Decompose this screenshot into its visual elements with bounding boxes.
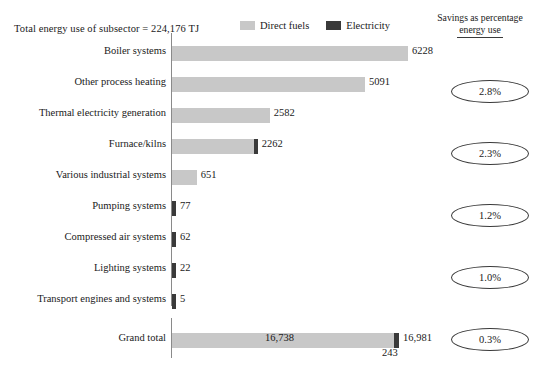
legend-item-electricity: Electricity <box>326 20 390 31</box>
legend-label-direct-fuels: Direct fuels <box>260 20 309 31</box>
chart-row: Lighting systems220.0% <box>0 255 542 286</box>
category-label: Various industrial systems <box>56 169 166 180</box>
category-label: Lighting systems <box>94 262 166 273</box>
legend-swatch-icon <box>240 21 255 30</box>
legend-swatch-icon <box>326 21 341 30</box>
category-label: Other process heating <box>74 76 166 87</box>
chart-row: Thermal electricity generation25821.2% <box>0 100 542 131</box>
category-label: Transport engines and systems <box>37 293 166 304</box>
bar-group <box>172 201 176 216</box>
chart-row: Boiler systems62282.8% <box>0 38 542 69</box>
bar-segment-electricity <box>172 232 176 247</box>
energy-use-chart: Total energy use of subsector = 224,176 … <box>0 0 542 381</box>
chart-row-grand-total: Grand total16,73816,9812437.6% <box>0 325 542 356</box>
bar-segment-electricity <box>172 294 176 309</box>
bar-segment-direct-fuels <box>172 170 197 185</box>
chart-row: Other process heating50912.3% <box>0 69 542 100</box>
bar-value-label: 2262 <box>262 138 283 149</box>
bar-value-label-direct-fuels: 16,738 <box>265 332 294 343</box>
bar-value-label: 651 <box>201 169 217 180</box>
bar-group <box>172 108 270 123</box>
category-label: Boiler systems <box>104 45 166 56</box>
bar-value-label-total: 16,981 <box>403 332 432 343</box>
bar-segment-direct-fuels <box>172 77 365 92</box>
bar-segment-electricity <box>394 333 399 348</box>
savings-column-header: Savings as percentage energy use <box>424 12 536 38</box>
bar-value-label: 5 <box>180 293 185 304</box>
bar-segment-electricity <box>254 139 258 154</box>
bar-value-label: 6228 <box>412 45 433 56</box>
bar-value-label: 62 <box>180 231 191 242</box>
chart-row: Transport engines and systems50.0% <box>0 286 542 317</box>
bar-value-label: 22 <box>180 262 191 273</box>
bar-segment-electricity <box>172 263 176 278</box>
bar-value-label: 2582 <box>274 107 295 118</box>
bar-group <box>172 77 365 92</box>
category-label: Pumping systems <box>92 200 166 211</box>
bar-value-label: 5091 <box>369 76 390 87</box>
bar-segment-direct-fuels <box>172 108 270 123</box>
category-label-grand-total: Grand total <box>118 332 166 343</box>
legend-label-electricity: Electricity <box>346 20 390 31</box>
legend-item-direct-fuels: Direct fuels <box>240 20 309 31</box>
chart-row: Compressed air systems620.0% <box>0 224 542 255</box>
bar-group <box>172 232 176 247</box>
bar-group <box>172 139 258 154</box>
bar-group <box>172 294 176 309</box>
category-label: Furnace/kilns <box>109 138 166 149</box>
savings-header-line1: Savings as percentage <box>437 12 523 23</box>
chart-row: Various industrial systems6510.3% <box>0 162 542 193</box>
chart-legend: Direct fuels Electricity <box>240 20 390 31</box>
bar-value-label-electricity: 243 <box>382 347 398 358</box>
category-label: Thermal electricity generation <box>39 107 166 118</box>
chart-row: Furnace/kilns22621.0% <box>0 131 542 162</box>
bar-value-label: 77 <box>180 200 191 211</box>
bar-group <box>172 170 197 185</box>
bar-group <box>172 263 176 278</box>
bar-segment-direct-fuels <box>172 46 408 61</box>
savings-header-line2: energy use <box>457 24 503 38</box>
bar-group <box>172 46 408 61</box>
chart-row: Pumping systems770.0% <box>0 193 542 224</box>
bar-segment-electricity <box>172 201 176 216</box>
category-label: Compressed air systems <box>65 231 167 242</box>
bar-segment-direct-fuels <box>172 139 254 154</box>
